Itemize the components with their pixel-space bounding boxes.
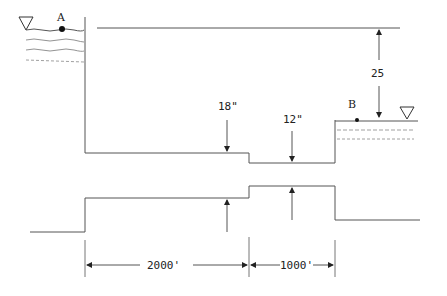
water-surface-triangle-icon [400,107,414,119]
length-dimensions: 2000' 1000' [85,237,335,277]
pipe-upper-wall [85,120,335,163]
pipe-2-diameter-label: 12" [283,113,303,126]
point-a-label: A [56,11,66,24]
head-difference-dimension: 25 [371,30,384,117]
pipe-2-length-label: 1000' [280,259,313,272]
point-b-marker [355,118,359,122]
pipe-2-diameter-dimension: 12" [283,113,303,220]
pipe-1-length-label: 2000' [147,259,180,272]
point-a-marker [59,26,65,32]
pipe-system-diagram: A B 25 18" 12" 2000' [0,0,447,296]
water-surface-line [26,29,84,31]
reservoir-a: A [19,11,84,62]
pipe-lower-wall [30,186,420,232]
point-b-label: B [348,98,356,111]
pipe-1-diameter-label: 18" [218,100,238,113]
pipe-1-diameter-dimension: 18" [218,100,238,232]
head-difference-label: 25 [371,67,384,80]
reservoir-b: B [335,98,418,139]
water-surface-triangle-icon [19,17,33,30]
